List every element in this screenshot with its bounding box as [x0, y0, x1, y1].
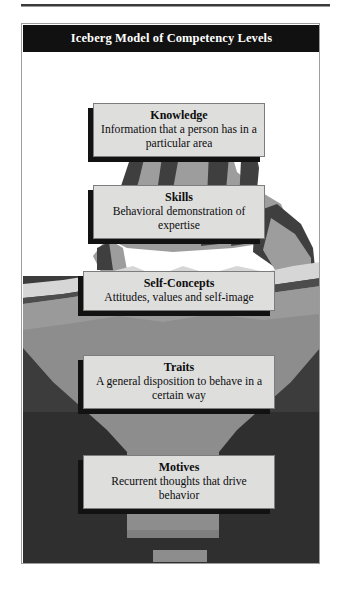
level-description-self-concepts: Attitudes, values and self-image [90, 291, 268, 305]
iceberg-bottom-tip [153, 550, 207, 562]
level-description-skills: Behavioral demonstration of expertise [100, 205, 258, 233]
iceberg-base [127, 530, 219, 538]
level-title-motives: Motives [90, 460, 268, 475]
level-box-skills[interactable]: Skills Behavioral demonstration of exper… [93, 185, 265, 239]
iceberg-scene: Knowledge Information that a person has … [23, 52, 320, 563]
level-title-traits: Traits [90, 360, 268, 375]
level-description-motives: Recurrent thoughts that drive behavior [90, 475, 268, 503]
level-box-motives[interactable]: Motives Recurrent thoughts that drive be… [83, 455, 275, 509]
page-title: Iceberg Model of Competency Levels [71, 31, 272, 46]
level-title-knowledge: Knowledge [100, 108, 258, 123]
figure-title-banner: Iceberg Model of Competency Levels [23, 25, 320, 52]
level-description-traits: A general disposition to behave in a cer… [90, 375, 268, 403]
level-box-traits[interactable]: Traits A general disposition to behave i… [83, 355, 275, 409]
page-top-rule [21, 4, 330, 6]
level-box-knowledge[interactable]: Knowledge Information that a person has … [93, 103, 265, 157]
level-box-self-concepts[interactable]: Self-Concepts Attitudes, values and self… [83, 271, 275, 311]
level-title-self-concepts: Self-Concepts [90, 276, 268, 291]
level-title-skills: Skills [100, 190, 258, 205]
iceberg-model-figure: Iceberg Model of Competency Levels [21, 23, 320, 564]
level-description-knowledge: Information that a person has in a parti… [100, 123, 258, 151]
